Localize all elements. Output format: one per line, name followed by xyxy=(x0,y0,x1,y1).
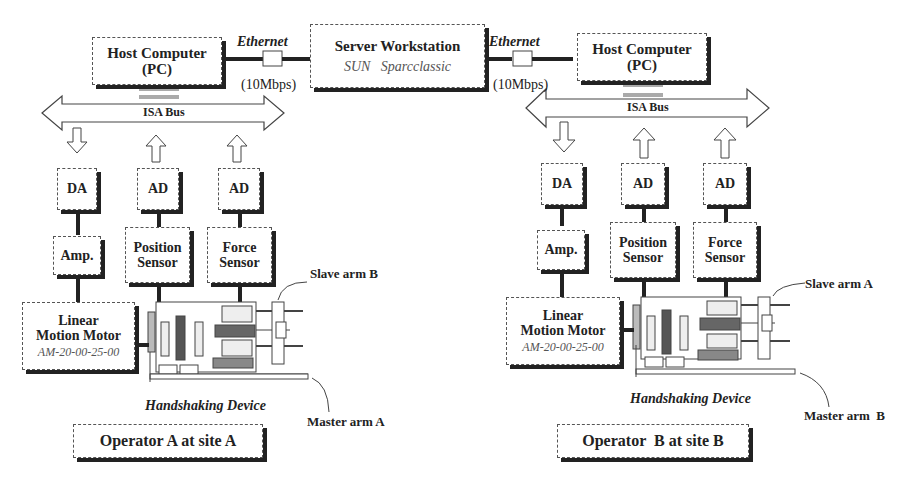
amplifier-b: Amp. xyxy=(537,230,585,270)
motor-b-line1: Linear xyxy=(543,308,583,323)
force-sensor-a-line1: Force xyxy=(223,240,257,255)
motor-a-model: AM-20-00-25-00 xyxy=(38,346,119,359)
handshaking-device-a-drawing xyxy=(133,302,308,382)
ad-position-a-label: AD xyxy=(148,181,168,196)
ad-force-a-label: AD xyxy=(229,181,249,196)
amp-b-label: Amp. xyxy=(544,242,577,257)
master-arm-a-label: Master arm A xyxy=(307,414,385,430)
slave-arm-b-label: Slave arm B xyxy=(310,266,378,282)
force-sensor-a: Force Sensor xyxy=(207,227,272,283)
da-b-label: DA xyxy=(552,176,572,191)
master-arm-b-label: Master arm B xyxy=(804,408,885,424)
operator-b-label: Operator B at site B xyxy=(582,432,723,450)
operator-a-label-box: Operator A at site A xyxy=(73,424,263,458)
ad-force-b-label: AD xyxy=(715,176,735,191)
isa-bus-b-label: ISA Bus xyxy=(627,100,669,115)
ad-position-b-label: AD xyxy=(633,176,653,191)
force-sensor-b: Force Sensor xyxy=(693,222,757,278)
motor-b-model: AM-20-00-25-00 xyxy=(522,341,603,354)
handshaking-device-b-label: Handshaking Device xyxy=(630,391,751,407)
position-sensor-b: Position Sensor xyxy=(610,222,676,278)
position-sensor-a-line2: Sensor xyxy=(137,255,177,270)
motor-b-line2: Motion Motor xyxy=(520,323,605,338)
server-title: Server Workstation xyxy=(335,38,461,55)
force-sensor-b-line1: Force xyxy=(708,235,742,250)
force-sensor-a-line2: Sensor xyxy=(219,255,259,270)
host-computer-b-subtitle: (PC) xyxy=(627,57,657,74)
amplifier-a: Amp. xyxy=(53,236,101,275)
ad-converter-position-b: AD xyxy=(621,163,665,205)
ethernet-right-speed: (10Mbps) xyxy=(493,77,548,93)
motor-a-line1: Linear xyxy=(58,313,98,328)
position-sensor-a-line1: Position xyxy=(133,240,181,255)
motor-a-line2: Motion Motor xyxy=(36,328,121,343)
ethernet-left-speed: (10Mbps) xyxy=(241,77,296,93)
ad-converter-position-a: AD xyxy=(137,168,179,210)
ad-converter-force-b: AD xyxy=(703,163,747,205)
host-computer-a: Host Computer (PC) xyxy=(92,37,222,85)
host-computer-b-title: Host Computer xyxy=(592,41,692,58)
teleoperation-system-diagram: Host Computer (PC) Ethernet (10Mbps) Ser… xyxy=(0,0,923,485)
da-converter-a: DA xyxy=(57,168,97,210)
operator-b-label-box: Operator B at site B xyxy=(557,424,749,458)
host-computer-a-title: Host Computer xyxy=(107,45,207,62)
linear-motion-motor-a: Linear Motion Motor AM-20-00-25-00 xyxy=(22,302,135,370)
host-computer-b: Host Computer (PC) xyxy=(577,33,707,81)
position-sensor-b-line1: Position xyxy=(619,235,667,250)
ethernet-right-label: Ethernet xyxy=(489,34,540,50)
da-a-label: DA xyxy=(67,181,87,196)
handshaking-device-a-label: Handshaking Device xyxy=(145,398,266,414)
linear-motion-motor-b: Linear Motion Motor AM-20-00-25-00 xyxy=(506,297,620,365)
da-converter-b: DA xyxy=(541,163,583,205)
ethernet-left-label: Ethernet xyxy=(237,34,288,50)
amp-a-label: Amp. xyxy=(60,248,93,263)
server-workstation: Server Workstation SUN Sparcclassic xyxy=(310,24,485,88)
server-subtitle: SUN Sparcclassic xyxy=(344,59,451,74)
position-sensor-b-line2: Sensor xyxy=(623,250,663,265)
isa-bus-a-label: ISA Bus xyxy=(143,105,185,120)
force-sensor-b-line2: Sensor xyxy=(705,250,745,265)
position-sensor-a: Position Sensor xyxy=(125,227,190,283)
ad-converter-force-a: AD xyxy=(218,168,260,210)
operator-a-label: Operator A at site A xyxy=(100,432,237,450)
handshaking-device-b-drawing xyxy=(618,297,795,377)
host-computer-a-subtitle: (PC) xyxy=(142,61,172,78)
slave-arm-a-label: Slave arm A xyxy=(805,276,873,292)
